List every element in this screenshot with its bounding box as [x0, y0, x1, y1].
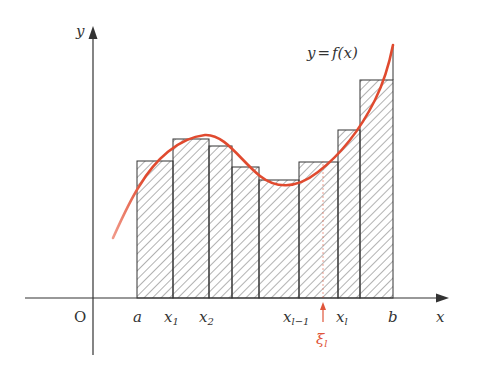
x-axis-arrow-icon	[436, 294, 449, 303]
curve-label-y: y	[306, 44, 316, 62]
curve-label-func: f(x)	[331, 44, 358, 62]
origin-label: O	[74, 308, 86, 326]
curve-label-eq: =	[317, 44, 330, 62]
xi-arrow-icon	[320, 302, 326, 310]
tick-label-a: a	[133, 308, 142, 326]
xi-label: ξl	[316, 330, 327, 349]
x-axis-label: x	[436, 308, 445, 326]
riemann-rectangle-6	[299, 162, 338, 298]
riemann-sum-diagram: y x O y=f(x) a x1 x2 xl−1 xl b ξl	[0, 0, 479, 380]
riemann-rectangles	[137, 45, 393, 298]
riemann-rectangle-5	[259, 180, 299, 298]
y-axis-label: y	[75, 22, 85, 40]
tick-label-b: b	[388, 308, 398, 326]
riemann-rectangle-2	[173, 139, 209, 298]
riemann-rectangle-4	[232, 167, 259, 298]
riemann-rectangle-7	[338, 130, 360, 298]
riemann-rectangle-3	[209, 146, 232, 298]
curve-label: y=f(x)	[306, 44, 358, 62]
tick-label-x1: x1	[164, 308, 179, 327]
tick-label-xl: xl	[336, 308, 348, 327]
tick-label-xl-1: xl−1	[283, 308, 309, 327]
y-axis-arrow-icon	[89, 26, 98, 39]
tick-label-x2: x2	[199, 308, 214, 327]
riemann-rectangle-8	[360, 80, 393, 298]
